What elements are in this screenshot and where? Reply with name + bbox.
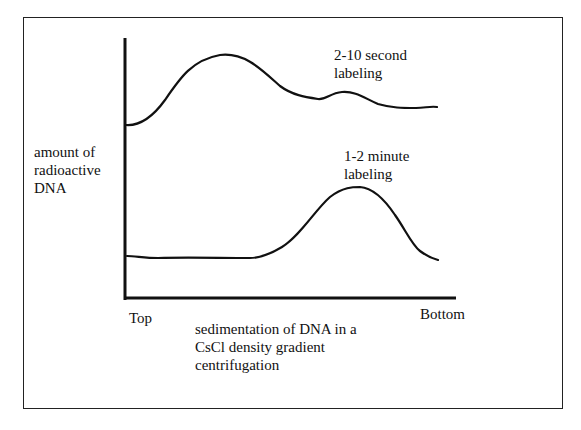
x-axis-label: sedimentation of DNA in a CsCl density g… [195, 320, 357, 374]
series-label-1-2-minute: 1-2 minute labeling [344, 147, 409, 183]
y-axis-label: amount of radioactive DNA [34, 143, 101, 197]
series-label-2-10-second: 2-10 second labeling [334, 46, 407, 82]
curve-1-2-minute-labeling [127, 187, 438, 260]
x-axis-left-label: Top [129, 309, 152, 327]
x-axis-right-label: Bottom [420, 305, 465, 323]
